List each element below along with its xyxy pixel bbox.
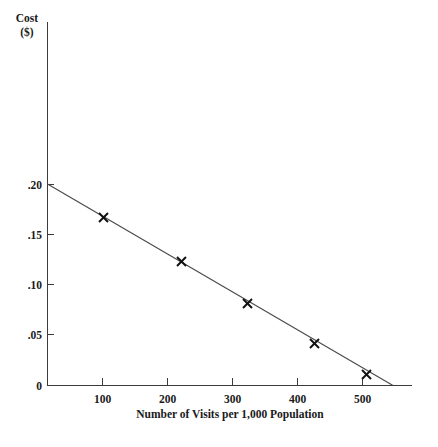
- y-axis-tick-labels: .20 .15 .10 .05 0: [28, 179, 43, 392]
- data-point-marker-1: [99, 213, 108, 222]
- y-tick-label-020: .20: [28, 179, 43, 191]
- y-tick-label-0: 0: [36, 380, 42, 392]
- y-axis-ticks: [48, 185, 55, 335]
- data-point-marker-5: [362, 370, 371, 379]
- y-tick-label-005: .05: [28, 329, 43, 341]
- x-axis-title: Number of Visits per 1,000 Population: [136, 408, 324, 421]
- x-tick-label-400: 400: [289, 393, 307, 405]
- x-tick-label-100: 100: [94, 393, 112, 405]
- y-axis-title-line1: Cost: [16, 12, 39, 24]
- x-tick-label-200: 200: [159, 393, 177, 405]
- y-axis-title-line2: ($): [20, 26, 34, 39]
- x-tick-label-300: 300: [224, 393, 242, 405]
- y-tick-label-015: .15: [28, 229, 43, 241]
- y-tick-label-010: .10: [28, 279, 43, 291]
- x-axis-tick-labels: 100 200 300 400 500: [94, 393, 372, 405]
- x-tick-label-500: 500: [354, 393, 372, 405]
- chart-figure: Cost ($) .20 .15 .10 .05 0: [0, 0, 438, 447]
- cost-vs-visits-line-chart: Cost ($) .20 .15 .10 .05 0: [0, 0, 438, 447]
- x-axis-ticks: [103, 378, 363, 386]
- data-point-marker-2: [177, 257, 186, 266]
